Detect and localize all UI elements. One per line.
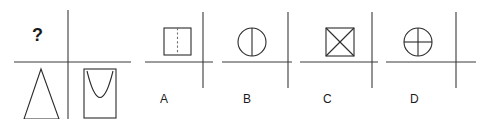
option-panel-c[interactable]: C: [298, 0, 384, 119]
option-a-figure: [140, 0, 220, 119]
option-label-b: B: [243, 93, 251, 105]
narrow-triangle-shape: [24, 69, 59, 119]
option-label-d: D: [410, 93, 419, 105]
option-c-figure: [298, 0, 384, 119]
option-panel-d[interactable]: D: [384, 0, 480, 119]
option-b-figure: [220, 0, 298, 119]
option-label-c: C: [323, 93, 332, 105]
option-panel-b[interactable]: B: [220, 0, 298, 119]
option-label-a: A: [160, 93, 168, 105]
question-mark: ?: [32, 26, 43, 44]
parabola-curve: [87, 71, 113, 98]
visual-reasoning-puzzle: ? A B: [0, 0, 480, 119]
question-panel-figure: [0, 0, 140, 119]
question-panel: ?: [0, 0, 140, 119]
option-d-figure: [384, 0, 480, 119]
option-panel-a[interactable]: A: [140, 0, 220, 119]
